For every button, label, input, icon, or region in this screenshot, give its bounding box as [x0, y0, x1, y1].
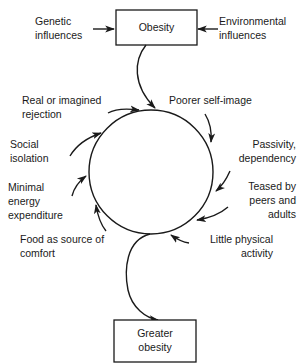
little-activity-line2: activity	[241, 247, 274, 259]
minimal-energy-line1: Minimal	[8, 181, 44, 193]
little-activity-line1: Little physical	[210, 233, 273, 245]
social-isolation-line2: isolation	[10, 152, 49, 164]
factor-rejection: Real or imagined rejection	[22, 94, 139, 120]
food-comfort-line1: Food as source of	[20, 233, 104, 245]
greater-obesity-line2: obesity	[138, 341, 172, 353]
cycle-to-greater-obesity-arrow-icon	[126, 234, 158, 320]
genetic-line2: influences	[35, 29, 82, 41]
environmental-line2: influences	[219, 29, 266, 41]
social-isolation-arrow-icon	[70, 133, 101, 156]
minimal-energy-line3: expenditure	[8, 209, 63, 221]
rejection-line1: Real or imagined	[22, 94, 102, 106]
little-activity-arrow-icon	[171, 235, 189, 243]
passivity-arrow-icon	[216, 171, 230, 191]
passivity-line1: Passivity,	[252, 138, 296, 150]
rejection-line2: rejection	[22, 108, 62, 120]
food-comfort-line2: comfort	[20, 247, 55, 259]
factor-little-physical-activity: Little physical activity	[171, 233, 274, 259]
teased-line3: adults	[268, 208, 296, 220]
obesity-box: Obesity	[116, 10, 197, 45]
genetic-line1: Genetic	[35, 15, 71, 27]
environmental-influences: Environmental influences	[198, 15, 286, 41]
minimal-energy-arrow-icon	[72, 176, 86, 196]
passivity-line2: dependency	[239, 152, 297, 164]
social-isolation-line1: Social	[10, 138, 39, 150]
greater-obesity-box: Greater obesity	[114, 320, 196, 362]
poorer-self-image-label: Poorer self-image	[169, 94, 252, 106]
poorer-self-image-arrow-icon	[205, 114, 211, 142]
factor-social-isolation: Social isolation	[10, 133, 101, 164]
obesity-label: Obesity	[139, 21, 175, 33]
factor-minimal-energy: Minimal energy expenditure	[8, 176, 86, 221]
minimal-energy-line2: energy	[8, 195, 41, 207]
obesity-cycle-diagram: Obesity Genetic influences Environmental…	[0, 0, 304, 364]
teased-line1: Teased by	[248, 180, 297, 192]
genetic-influences: Genetic influences	[35, 15, 114, 41]
greater-obesity-line1: Greater	[137, 327, 173, 339]
teased-line2: peers and	[249, 194, 296, 206]
obesity-to-cycle-arrow-icon	[137, 45, 155, 108]
environmental-line1: Environmental	[219, 15, 286, 27]
cycle-circle	[89, 110, 213, 234]
